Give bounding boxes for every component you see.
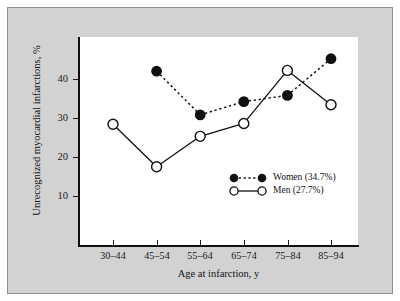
figure-container: 40 30 20 10 30–44 45–54 55–64 65–74 75–8… bbox=[0, 0, 400, 301]
data-point[interactable] bbox=[195, 109, 206, 120]
legend-item-men[interactable]: Men (27.7%) bbox=[228, 184, 336, 197]
legend-label-men: Men (27.7%) bbox=[273, 184, 324, 197]
series-layer bbox=[0, 0, 400, 301]
data-point[interactable] bbox=[326, 100, 336, 110]
data-point[interactable] bbox=[108, 119, 118, 129]
series-segment bbox=[200, 102, 244, 115]
series-segment bbox=[200, 123, 244, 136]
data-point[interactable] bbox=[238, 96, 249, 107]
legend: Women (34.7%) Men (27.7%) bbox=[228, 171, 336, 197]
series-men bbox=[108, 65, 336, 171]
legend-item-women[interactable]: Women (34.7%) bbox=[228, 171, 336, 184]
legend-label-women: Women (34.7%) bbox=[273, 171, 336, 184]
data-point[interactable] bbox=[195, 131, 205, 141]
series-segment bbox=[157, 71, 201, 115]
data-point[interactable] bbox=[282, 65, 292, 75]
data-point[interactable] bbox=[282, 90, 293, 101]
series-segment bbox=[287, 70, 331, 104]
series-segment bbox=[113, 124, 157, 167]
data-point[interactable] bbox=[151, 66, 162, 77]
legend-key-women-filled-circle-dotted bbox=[228, 172, 268, 184]
legend-key-men-open-circle-solid bbox=[228, 185, 268, 197]
data-point[interactable] bbox=[152, 162, 162, 172]
series-segment bbox=[287, 59, 331, 96]
series-segment bbox=[244, 70, 288, 123]
data-point[interactable] bbox=[239, 118, 249, 128]
series-segment bbox=[157, 136, 201, 166]
data-point[interactable] bbox=[326, 53, 337, 64]
